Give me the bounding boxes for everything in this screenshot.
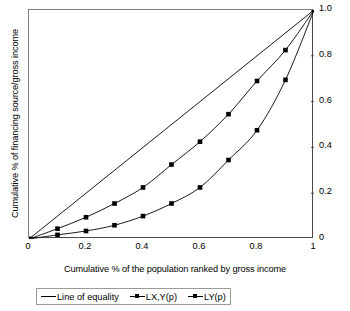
data-point-marker — [255, 79, 260, 84]
legend-entry-1[interactable]: Line of equality — [41, 292, 119, 302]
data-point-marker — [141, 185, 146, 190]
chart-legend: Line of equalityLX,Y(p)LY(p) — [36, 288, 231, 305]
data-point-marker — [55, 226, 60, 231]
x-tick-label-3: 0.6 — [184, 241, 214, 251]
y-tick-label-1: 0.8 — [319, 49, 347, 59]
data-point-marker — [84, 229, 89, 234]
data-point-marker — [169, 201, 174, 206]
data-point-marker — [112, 223, 117, 228]
legend-line-marker-icon — [130, 292, 145, 301]
y-tick-label-5: 0 — [319, 232, 347, 242]
legend-label: LX,Y(p) — [146, 292, 177, 302]
y-tick-label-3: 0.4 — [319, 140, 347, 150]
y-axis-title: Cumulative % of financing source/gross i… — [10, 4, 21, 244]
data-point-marker — [112, 201, 117, 206]
data-point-marker — [283, 48, 288, 53]
legend-line-icon — [41, 292, 56, 301]
legend-line-marker-icon — [188, 292, 203, 301]
data-point-marker — [29, 237, 31, 239]
data-point-marker — [198, 185, 203, 190]
chart-canvas — [29, 10, 314, 239]
y-tick-label-2: 0.6 — [319, 95, 347, 105]
y-tick-label-4: 0.2 — [319, 186, 347, 196]
plot-area — [28, 9, 313, 238]
x-tick-label-1: 0.2 — [70, 241, 100, 251]
legend-entry-2[interactable]: LX,Y(p) — [130, 292, 177, 302]
legend-label: LY(p) — [204, 292, 226, 302]
data-point-marker — [198, 139, 203, 144]
data-point-marker — [84, 215, 89, 220]
data-point-marker — [141, 214, 146, 219]
x-tick-label-4: 0.8 — [241, 241, 271, 251]
data-point-marker — [255, 128, 260, 133]
data-point-marker — [312, 10, 314, 12]
data-point-marker — [226, 112, 231, 117]
x-axis-title: Cumulative % of the population ranked by… — [0, 264, 350, 274]
legend-label: Line of equality — [57, 292, 119, 302]
x-tick-label-0: 0 — [13, 241, 43, 251]
data-point-marker — [55, 233, 60, 238]
x-tick-label-2: 0.4 — [127, 241, 157, 251]
lorenz-curve-figure: Cumulative % of financing source/gross i… — [0, 0, 350, 311]
data-point-marker — [283, 78, 288, 83]
x-tick-label-5: 1 — [298, 241, 328, 251]
y-tick-label-0: 1.0 — [319, 3, 347, 13]
data-point-marker — [169, 162, 174, 167]
legend-entry-3[interactable]: LY(p) — [188, 292, 226, 302]
data-point-marker — [226, 158, 231, 163]
